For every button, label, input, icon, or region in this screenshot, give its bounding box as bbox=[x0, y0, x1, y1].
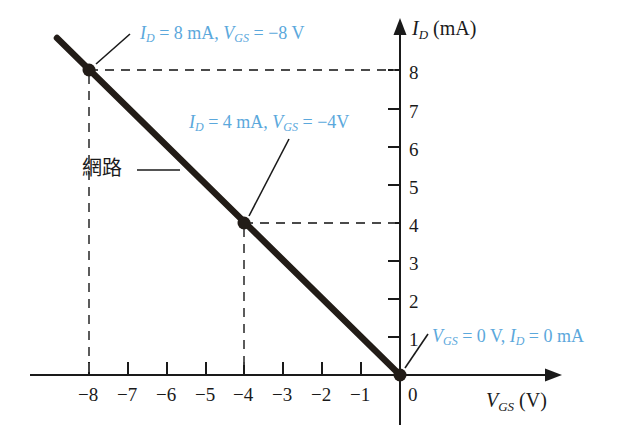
annot-0-mid2: = 0 mA bbox=[524, 326, 584, 346]
x-tick-label--6: −6 bbox=[156, 385, 176, 404]
x-axis-subscript: GS bbox=[498, 399, 514, 414]
x-tick-label--7: −7 bbox=[117, 385, 137, 404]
y-tick-label-4: 4 bbox=[409, 216, 419, 235]
plot-canvas bbox=[0, 0, 620, 439]
data-point--4V-4mA bbox=[238, 217, 251, 230]
leader-line-8mA bbox=[96, 34, 130, 64]
annot-4-sub2: GS bbox=[283, 120, 298, 134]
y-tick-label-3: 3 bbox=[409, 254, 419, 273]
annot-8-mid1: = 8 mA, bbox=[155, 23, 219, 43]
y-axis-arrowhead bbox=[394, 18, 407, 35]
x-tick-label--8: −8 bbox=[78, 385, 98, 404]
y-tick-label-8: 8 bbox=[409, 63, 419, 82]
annot-0-mid1: = 0 V, bbox=[458, 326, 506, 346]
annot-4-sym2: V bbox=[272, 112, 283, 132]
x-axis-arrowhead bbox=[545, 369, 562, 382]
annot-8-sub1: D bbox=[146, 31, 155, 45]
annot-0-sym1: V bbox=[432, 326, 443, 346]
x-tick-label--5: −5 bbox=[195, 385, 215, 404]
x-axis-unit-text: (V) bbox=[519, 389, 547, 411]
y-axis bbox=[394, 18, 407, 425]
network-load-line bbox=[57, 38, 400, 375]
x-axis bbox=[30, 369, 562, 382]
annotation-point-origin: VGS = 0 V, ID = 0 mA bbox=[432, 327, 584, 347]
x-tick-label--3: −3 bbox=[272, 385, 292, 404]
annot-4-mid1: = 4 mA, bbox=[204, 112, 268, 132]
y-tick-label-2: 2 bbox=[409, 292, 419, 311]
y-tick-label-6: 6 bbox=[409, 140, 419, 159]
annotation-point-8mA: ID = 8 mA, VGS = −8 V bbox=[140, 24, 304, 44]
x-axis-title: VGS (V) bbox=[486, 390, 547, 413]
annot-4-mid2: = −4V bbox=[298, 112, 349, 132]
y-axis-unit-text: (mA) bbox=[433, 17, 476, 39]
data-point--8V-8mA bbox=[83, 64, 96, 77]
y-tick-label-1: 1 bbox=[409, 330, 419, 349]
data-point-0V-0mA bbox=[394, 369, 407, 382]
y-tick-label-7: 7 bbox=[409, 102, 419, 121]
y-tick-label-5: 5 bbox=[409, 178, 419, 197]
jfet-load-line-figure: −8 −7 −6 −5 −4 −3 −2 −1 0 1 2 3 4 5 6 7 … bbox=[0, 0, 620, 439]
annot-4-sub1: D bbox=[195, 120, 204, 134]
y-axis-ticks bbox=[388, 70, 400, 337]
curve-label-network: 網路 bbox=[82, 158, 122, 178]
annot-0-sub1: GS bbox=[443, 334, 458, 348]
annot-8-sym2: V bbox=[223, 23, 234, 43]
x-axis-symbol: V bbox=[486, 389, 498, 411]
annotation-point-4mA: ID = 4 mA, VGS = −4V bbox=[189, 113, 349, 133]
x-tick-label--4: −4 bbox=[233, 385, 253, 404]
x-tick-label--2: −2 bbox=[311, 385, 331, 404]
annot-8-mid2: = −8 V bbox=[249, 23, 304, 43]
y-axis-subscript: D bbox=[419, 27, 428, 42]
x-axis-ticks bbox=[89, 362, 361, 375]
annot-8-sub2: GS bbox=[234, 31, 249, 45]
x-tick-label-0: 0 bbox=[408, 385, 418, 404]
y-axis-symbol: I bbox=[412, 17, 419, 39]
y-axis-title: ID (mA) bbox=[412, 18, 476, 41]
leader-line-4mA bbox=[249, 139, 289, 216]
x-tick-label--1: −1 bbox=[350, 385, 370, 404]
